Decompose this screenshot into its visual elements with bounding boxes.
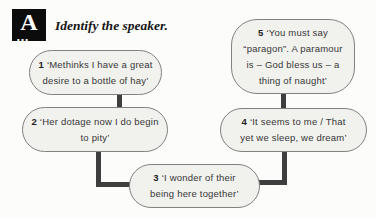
bubble-number: 5 [258,27,263,38]
bubble-text: ‘Methinks I have a great [47,59,153,70]
bubble-line: 4‘It seems to me / That [241,114,345,130]
bubble-text: ‘You must say [267,27,328,38]
bubble-number: 4 [241,116,246,127]
activity-logo: A … [12,9,46,41]
bubble-line: is – God bless us – a [247,57,340,73]
bubble-line: 5‘You must say [258,25,328,41]
instruction-title: Identify the speaker. [55,18,168,34]
speech-bubble-1: 1‘Methinks I have a great desire to a bo… [29,50,162,95]
bubble-line: 2‘Her dotage now I do begin [31,114,158,130]
bubble-line: being here together’ [150,186,239,202]
speech-bubble-2: 2‘Her dotage now I do begin to pity’ [22,107,168,152]
bubble-text: ‘I wonder of their [162,172,236,183]
bubble-line: 3‘I wonder of their [153,170,235,186]
bubble-line: thing of naught’ [259,73,327,89]
bubble-line: 1‘Methinks I have a great [38,57,152,73]
bubble-number: 3 [153,172,158,183]
worksheet: A … Identify the speaker. 1‘Methinks I h… [0,0,376,218]
bubble-text: ‘Her dotage now I do begin [40,116,159,127]
speech-bubble-3: 3‘I wonder of their being here together’ [129,164,260,208]
bubble-number: 2 [31,116,36,127]
speech-bubble-5: 5‘You must say “paragon”. A paramour is … [231,19,355,94]
bubble-text: ‘It seems to me / That [250,116,346,127]
bubble-line: to pity’ [80,130,109,146]
speech-bubble-4: 4‘It seems to me / That yet we sleep, we… [220,108,367,152]
bubble-line: desire to a bottle of hay’ [42,73,148,89]
bubble-line: yet we sleep, we dream’ [240,130,347,146]
bubble-line: “paragon”. A paramour [243,41,342,57]
logo-dots-icon: … [16,32,30,42]
bubble-number: 1 [38,59,43,70]
